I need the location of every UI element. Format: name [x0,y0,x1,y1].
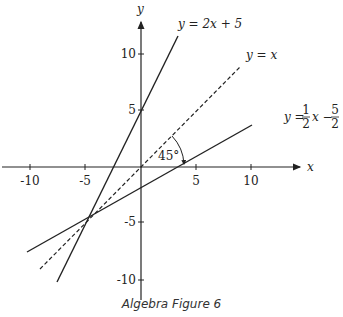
label-y-2x-plus-5: y = 2x + 5 [177,17,242,31]
svg-text:1: 1 [302,103,310,117]
x-axis-label: x [307,160,314,174]
y-axis-label: y [136,2,144,16]
svg-text:2: 2 [302,117,310,131]
line-y-half-x-minus-5-2 [27,125,252,252]
coordinate-plane: -10 -5 5 10 10 5 -5 -10 x y y = 2x + 5 y… [0,0,343,317]
x-tick-label: -5 [79,174,91,188]
x-tick-label: -10 [20,174,39,188]
svg-text:5: 5 [331,103,339,117]
label-y-equals-x: y = x [245,48,277,62]
x-axis [2,164,300,170]
svg-text:2: 2 [331,117,339,131]
y-tick-label: 5 [128,103,136,117]
x-tick-label: 5 [192,174,200,188]
svg-text:x −: x − [312,110,333,124]
y-tick-label: 10 [121,47,136,61]
label-y-half-x-minus-5-2: y = 1 2 x − 5 2 [283,103,339,131]
y-tick-label: -10 [117,273,136,287]
figure-caption: Algebra Figure 6 [0,297,343,311]
y-axis [138,22,144,300]
x-tick-label: 10 [243,174,258,188]
y-tick-label: -5 [124,215,136,229]
angle-label: 45° [158,149,179,163]
